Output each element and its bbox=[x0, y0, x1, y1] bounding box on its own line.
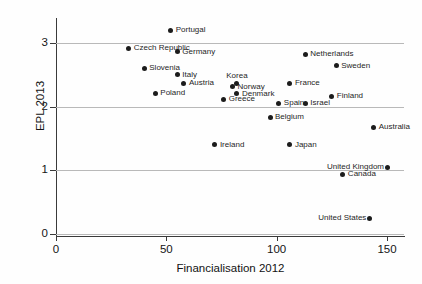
y-tick-mark bbox=[50, 234, 56, 235]
data-point[interactable] bbox=[126, 46, 131, 51]
data-point-label: Slovenia bbox=[149, 64, 180, 72]
x-tick-label: 0 bbox=[36, 243, 76, 255]
data-point-label: Portugal bbox=[176, 26, 206, 34]
scatter-plot-figure: EPL 2013 PortugalCzech RepublicGermanyNe… bbox=[0, 0, 422, 284]
data-point-label: Finland bbox=[337, 92, 363, 100]
y-tick-label: 2 bbox=[18, 100, 48, 112]
data-point[interactable] bbox=[142, 66, 147, 71]
data-point[interactable] bbox=[268, 115, 273, 120]
gridline-y bbox=[56, 107, 404, 108]
data-point-label: Germany bbox=[182, 48, 215, 56]
data-point-label: Greece bbox=[229, 95, 255, 103]
x-axis-line bbox=[56, 236, 405, 237]
data-point-label: Netherlands bbox=[310, 50, 353, 58]
data-point-label: United States bbox=[318, 214, 366, 222]
y-tick-mark bbox=[50, 107, 56, 108]
data-point[interactable] bbox=[175, 49, 180, 54]
x-tick-label: 100 bbox=[257, 243, 297, 255]
data-point-label: Israel bbox=[310, 99, 330, 107]
data-point-label: France bbox=[295, 79, 320, 87]
x-tick-mark bbox=[166, 236, 167, 241]
plot-area: PortugalCzech RepublicGermanyNetherlands… bbox=[56, 18, 404, 234]
x-tick-mark bbox=[387, 236, 388, 241]
data-point[interactable] bbox=[175, 72, 180, 77]
data-point-label: Korea bbox=[226, 72, 247, 80]
data-point[interactable] bbox=[367, 216, 372, 221]
y-tick-label: 3 bbox=[18, 36, 48, 48]
data-point[interactable] bbox=[221, 97, 226, 102]
data-point-label: Poland bbox=[160, 89, 185, 97]
data-point[interactable] bbox=[371, 125, 376, 130]
x-axis-title: Financialisation 2012 bbox=[56, 262, 405, 274]
data-point[interactable] bbox=[287, 81, 292, 86]
data-point-label: Ireland bbox=[220, 141, 244, 149]
data-point[interactable] bbox=[276, 101, 281, 106]
x-tick-mark bbox=[277, 236, 278, 241]
data-point[interactable] bbox=[153, 91, 158, 96]
x-tick-label: 50 bbox=[146, 243, 186, 255]
y-tick-mark bbox=[50, 170, 56, 171]
data-point[interactable] bbox=[287, 142, 292, 147]
data-point-label: Australia bbox=[379, 123, 410, 131]
y-tick-mark bbox=[50, 43, 56, 44]
data-point[interactable] bbox=[303, 52, 308, 57]
gridline-y bbox=[56, 43, 404, 44]
data-point[interactable] bbox=[303, 101, 308, 106]
data-point-label: Canada bbox=[348, 170, 376, 178]
data-point-label: Sweden bbox=[341, 62, 370, 70]
data-point[interactable] bbox=[385, 165, 390, 170]
data-point-label: Japan bbox=[295, 141, 317, 149]
gridline-y bbox=[56, 234, 404, 235]
y-tick-label: 1 bbox=[18, 163, 48, 175]
data-point[interactable] bbox=[340, 172, 345, 177]
data-point[interactable] bbox=[230, 84, 235, 89]
data-point-label: Spain bbox=[284, 99, 304, 107]
data-point-label: Belgium bbox=[275, 113, 304, 121]
data-point[interactable] bbox=[334, 63, 339, 68]
data-point[interactable] bbox=[181, 81, 186, 86]
data-point[interactable] bbox=[212, 142, 217, 147]
x-tick-label: 150 bbox=[367, 243, 407, 255]
y-tick-label: 0 bbox=[18, 227, 48, 239]
data-point[interactable] bbox=[168, 28, 173, 33]
data-point-label: Austria bbox=[189, 79, 214, 87]
x-tick-mark bbox=[56, 236, 57, 241]
